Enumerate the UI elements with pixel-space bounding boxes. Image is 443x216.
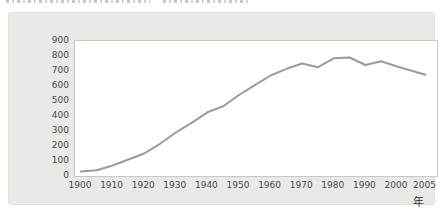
truncated-caption-fragment (6, 0, 150, 3)
y-tick-label: 600 (37, 80, 69, 90)
y-tick-label: 500 (37, 95, 69, 105)
x-tick-label: 1940 (195, 180, 218, 190)
page: 0100200300400500600700800900 19001910192… (0, 0, 443, 216)
x-tick-label: 1980 (321, 180, 344, 190)
x-tick-label: 1950 (227, 180, 250, 190)
y-tick-label: 400 (37, 110, 69, 120)
x-tick-label: 1900 (69, 180, 92, 190)
y-tick-label: 300 (37, 125, 69, 135)
y-tick-label: 900 (37, 35, 69, 45)
x-tick-label: 1990 (353, 180, 376, 190)
y-tick-label: 0 (37, 170, 69, 180)
x-tick-label: 2005 (413, 180, 436, 190)
y-tick-label: 700 (37, 65, 69, 75)
plot-area (74, 40, 438, 177)
x-tick-label: 2000 (385, 180, 408, 190)
x-tick-label: 1960 (258, 180, 281, 190)
x-tick-label: 1930 (163, 180, 186, 190)
x-tick-label: 1910 (100, 180, 123, 190)
x-tick-label: 1970 (290, 180, 313, 190)
x-tick-label: 1920 (132, 180, 155, 190)
y-tick-label: 800 (37, 50, 69, 60)
y-tick-label: 200 (37, 140, 69, 150)
line-chart-canvas (75, 41, 437, 176)
data-line-series (81, 58, 426, 172)
x-axis-unit-label: 年 (413, 193, 424, 209)
truncated-caption-fragment (163, 0, 251, 3)
chart-panel: 0100200300400500600700800900 19001910192… (8, 12, 435, 205)
y-tick-label: 100 (37, 155, 69, 165)
